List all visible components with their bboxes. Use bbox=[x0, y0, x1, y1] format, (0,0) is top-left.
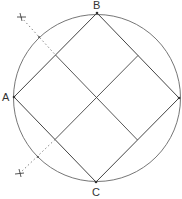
cross-mark-top bbox=[17, 13, 26, 21]
label-c: C bbox=[92, 186, 100, 198]
geometry-diagram: B A C bbox=[0, 0, 182, 199]
midline-2 bbox=[55, 56, 138, 140]
vertex-a bbox=[13, 96, 16, 99]
vertex-b bbox=[96, 12, 99, 15]
label-a: A bbox=[2, 91, 10, 103]
arc-point-top bbox=[38, 36, 40, 38]
label-b: B bbox=[93, 0, 100, 11]
bisector-upper bbox=[21, 17, 56, 55]
vertex-c bbox=[95, 181, 98, 184]
bisector-lower bbox=[20, 140, 55, 174]
arc-point-bottom bbox=[37, 156, 39, 158]
vertex-d bbox=[178, 97, 181, 100]
